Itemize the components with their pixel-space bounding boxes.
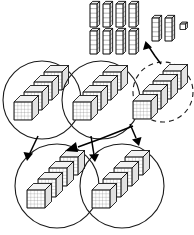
rod [129, 1, 139, 27]
rod [116, 1, 126, 27]
base-ten-blocks-diagram [0, 0, 194, 235]
rod [103, 1, 113, 27]
rod [116, 28, 126, 54]
rod [165, 15, 175, 41]
rod [90, 28, 100, 54]
rod [152, 15, 162, 41]
rod [90, 1, 100, 27]
diagram-canvas [0, 0, 194, 235]
unit-cube [180, 22, 187, 29]
rod [103, 28, 113, 54]
rod [129, 28, 139, 54]
